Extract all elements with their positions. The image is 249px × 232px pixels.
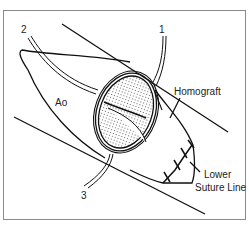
label-suture-2: 2 — [21, 24, 27, 35]
lower-suture-line — [163, 140, 194, 183]
suture-3 — [84, 154, 113, 188]
aortic-homograft-diagram: 2 1 3 Ao Homograft Lower Suture Line — [0, 0, 249, 232]
label-homograft: Homograft — [174, 86, 221, 97]
suture-1 — [152, 36, 166, 86]
label-aorta: Ao — [55, 97, 68, 108]
suture-2 — [28, 36, 98, 94]
label-suture-3: 3 — [81, 190, 87, 201]
label-suture-1: 1 — [159, 24, 165, 35]
valve-ring — [83, 62, 170, 162]
label-lower: Lower — [204, 169, 232, 180]
label-suture-line: Suture Line — [195, 182, 247, 193]
